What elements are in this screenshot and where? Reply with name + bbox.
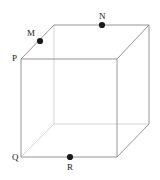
label-p: P: [12, 54, 17, 63]
label-n: N: [99, 12, 106, 21]
cube-drawing: [0, 0, 160, 180]
label-m: M: [27, 29, 35, 38]
label-q: Q: [12, 153, 19, 162]
hidden-edge-front-bottom-left-to-back-bottom-left: [21, 124, 54, 157]
point-r: [67, 154, 73, 160]
point-n: [99, 22, 105, 28]
cube-figure: M N R P Q: [0, 0, 160, 180]
edge-depth-front-top-right-to-back-top-right: [117, 25, 149, 59]
label-r: R: [67, 163, 73, 172]
marked-points-group: [37, 22, 105, 160]
point-m: [37, 38, 43, 44]
edge-depth-front-bottom-right-to-back-bottom-right: [117, 124, 149, 157]
